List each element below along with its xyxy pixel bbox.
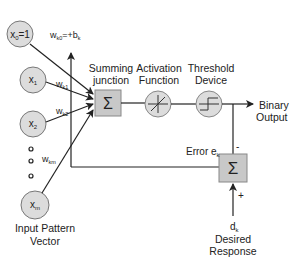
activation-label-1: Activation bbox=[136, 62, 182, 74]
desired-label-1: Desired bbox=[215, 233, 251, 245]
input-node-x2: x2 bbox=[20, 111, 46, 137]
error-label: Error ek bbox=[186, 146, 221, 158]
input-node-x1: x1 bbox=[20, 67, 46, 93]
sigma-icon: Σ bbox=[103, 95, 113, 112]
binary-output-label-2: Output bbox=[256, 111, 288, 123]
error-summing-box: Σ bbox=[219, 154, 247, 182]
weight-label-k2: wk2 bbox=[55, 106, 68, 117]
plus-sign: + bbox=[238, 190, 244, 201]
svg-text:x0=1: x0=1 bbox=[10, 29, 30, 41]
input-pattern-label: Input Pattern bbox=[15, 222, 75, 234]
desired-symbol: dk bbox=[230, 221, 240, 233]
input-node-x0: x0=1 bbox=[7, 21, 33, 47]
input-vector-label: Vector bbox=[30, 235, 60, 247]
ellipsis-dots bbox=[29, 147, 33, 178]
summing-label-1: Summing bbox=[89, 62, 134, 74]
minus-sign: - bbox=[236, 141, 239, 152]
weight-label-k1: wk1 bbox=[55, 79, 68, 90]
desired-label-2: Response bbox=[209, 245, 256, 257]
weight-label-km: wkm bbox=[41, 154, 56, 165]
binary-output-label-1: Binary bbox=[259, 99, 290, 111]
summing-junction-box: Σ bbox=[95, 90, 121, 116]
input-node-xm: xm bbox=[21, 191, 49, 219]
sigma-icon: Σ bbox=[228, 159, 239, 178]
threshold-device-node bbox=[196, 91, 222, 117]
activation-function-node bbox=[145, 91, 171, 117]
threshold-label-1: Threshold bbox=[188, 62, 235, 74]
activation-label-2: Function bbox=[139, 74, 179, 86]
summing-label-2: junction bbox=[92, 74, 129, 86]
weight-label-k0: wk0=+bk bbox=[49, 30, 81, 41]
threshold-label-2: Device bbox=[195, 74, 227, 86]
adaline-diagram: x0=1 x1 x2 xm Input Pattern Vector wk0=+… bbox=[0, 0, 301, 271]
